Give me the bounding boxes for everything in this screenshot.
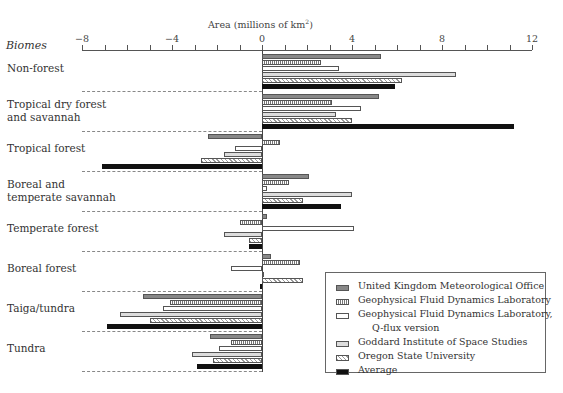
bar <box>262 72 456 77</box>
category-label-line: temperate savannah <box>7 191 116 204</box>
bar <box>192 352 262 357</box>
legend-swatch-icon <box>336 369 349 375</box>
category-label-line: Non-forest <box>7 62 64 75</box>
tick-mark <box>127 45 128 50</box>
tick-mark <box>82 45 83 50</box>
category-label-line: Taiga/tundra <box>7 302 75 315</box>
bar <box>262 278 303 283</box>
tick-mark <box>195 45 196 50</box>
bar <box>262 198 303 203</box>
tick-label: −4 <box>165 33 179 44</box>
tick-mark <box>487 45 488 50</box>
bar <box>262 192 352 197</box>
bar <box>262 186 267 191</box>
bar <box>231 266 263 271</box>
category-label-line: Tropical dry forest <box>7 98 106 111</box>
tick-label: 8 <box>439 33 445 44</box>
tick-label: −8 <box>75 33 89 44</box>
tick-mark <box>532 45 533 50</box>
category-label: Boreal andtemperate savannah <box>7 178 116 204</box>
bar <box>102 164 262 169</box>
group-separator <box>82 291 262 292</box>
x-axis-title: Area (millions of km2) <box>208 18 313 30</box>
tick-mark <box>217 45 218 50</box>
bar <box>120 312 262 317</box>
category-label-line: Boreal and <box>7 178 116 191</box>
bar <box>262 78 402 83</box>
legend-swatch-icon <box>336 355 349 361</box>
bar <box>249 244 263 249</box>
tick-mark <box>307 45 308 50</box>
bar <box>262 204 341 209</box>
bar <box>210 334 262 339</box>
category-label-line: Tundra <box>7 342 46 355</box>
bar <box>262 180 289 185</box>
legend-label: Geophysical Fluid Dynamics Laboratory <box>358 294 551 305</box>
bar <box>240 220 263 225</box>
tick-mark <box>352 45 353 50</box>
bar <box>231 340 263 345</box>
bar <box>262 118 352 123</box>
legend-label: United Kingdom Meteorological Office <box>358 280 544 291</box>
bar <box>107 324 262 329</box>
category-label-line: and savannah <box>7 111 106 124</box>
bar <box>143 294 262 299</box>
bar <box>262 100 332 105</box>
category-label: Taiga/tundra <box>7 302 75 315</box>
tick-label: 4 <box>349 33 355 44</box>
legend: United Kingdom Meteorological Office Geo… <box>325 272 546 373</box>
legend-label: Oregon State University <box>358 350 475 361</box>
tick-mark <box>172 45 173 50</box>
bar <box>262 112 336 117</box>
bar <box>197 364 262 369</box>
bar <box>262 66 339 71</box>
group-separator <box>82 211 262 212</box>
bar <box>235 146 262 151</box>
legend-label: Average <box>358 364 397 375</box>
axis-title-text: Area (millions of km <box>208 19 305 30</box>
bar <box>260 284 262 289</box>
tick-mark <box>150 45 151 50</box>
category-label: Tropical forest <box>7 142 85 155</box>
group-separator <box>82 131 262 132</box>
bar <box>262 124 514 129</box>
tick-mark <box>375 45 376 50</box>
bar <box>170 300 262 305</box>
bar <box>262 254 271 259</box>
bar <box>262 140 280 145</box>
legend-label: Goddard Institute of Space Studies <box>358 336 527 347</box>
bar <box>262 106 361 111</box>
bar <box>224 232 262 237</box>
tick-mark <box>240 45 241 50</box>
bar <box>262 272 264 277</box>
bar <box>208 134 262 139</box>
category-label: Non-forest <box>7 62 64 75</box>
tick-label: 12 <box>526 33 538 44</box>
legend-swatch-icon <box>336 299 349 305</box>
axis-title-suffix: ) <box>309 19 313 30</box>
legend-swatch-icon <box>336 341 349 347</box>
tick-mark <box>285 45 286 50</box>
category-label: Tropical dry forestand savannah <box>7 98 106 124</box>
group-separator <box>82 331 262 332</box>
category-label: Tundra <box>7 342 46 355</box>
bar <box>262 84 395 89</box>
tick-mark <box>105 45 106 50</box>
bar <box>262 260 300 265</box>
bar <box>262 174 309 179</box>
tick-mark <box>442 45 443 50</box>
bar <box>262 214 267 219</box>
bar <box>201 158 262 163</box>
bar <box>150 318 263 323</box>
x-axis-line <box>82 50 532 51</box>
legend-swatch-icon <box>336 313 349 319</box>
bar <box>262 226 354 231</box>
bar <box>249 238 263 243</box>
category-label: Boreal forest <box>7 262 76 275</box>
group-separator <box>82 251 262 252</box>
group-separator <box>82 371 262 372</box>
tick-mark <box>397 45 398 50</box>
legend-swatch-icon <box>336 285 349 291</box>
group-separator <box>82 171 262 172</box>
bar <box>262 94 379 99</box>
